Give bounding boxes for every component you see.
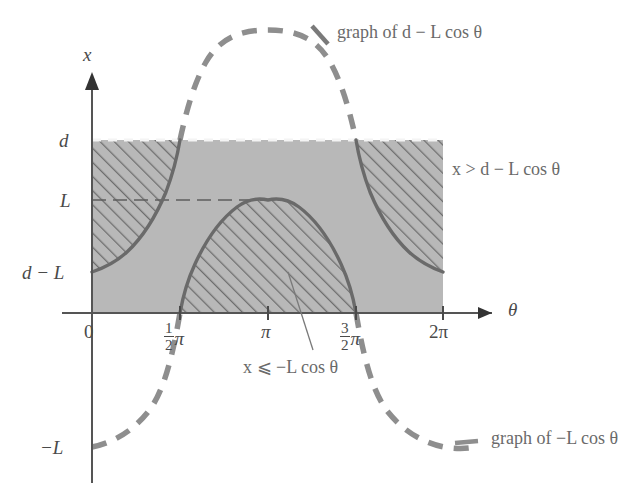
curve-minus-L-cos-dashed — [92, 313, 476, 449]
axis-label-x: x — [83, 45, 91, 64]
x-tick-label-two-pi: 2π — [429, 322, 448, 341]
x-tick-label-pi: π — [261, 322, 271, 341]
x-tick-label-zero: 0 — [84, 322, 94, 341]
y-tick-label-L: L — [60, 191, 71, 210]
pi-glyph-half: π — [175, 328, 185, 349]
y-tick-label-d: d — [59, 131, 69, 150]
y-tick-label-d-minus-L: d − L — [22, 263, 64, 282]
leader-line-upper-curve — [312, 26, 328, 44]
pi-glyph-three-half: π — [351, 328, 361, 349]
x-tick-label-half-pi: 1 2 π — [164, 320, 184, 352]
diagram-canvas — [0, 0, 643, 497]
leader-line-lower-curve — [455, 441, 478, 443]
callout-lower-curve: graph of −L cos θ — [491, 429, 618, 447]
x-tick-label-three-half-pi: 3 2 π — [340, 320, 360, 352]
callout-upper-curve: graph of d − L cos θ — [337, 23, 482, 41]
callout-lower-region: x ⩽ −L cos θ — [243, 358, 338, 376]
callout-upper-region: x > d − L cos θ — [452, 160, 560, 178]
fraction-one-half: 1 2 — [164, 320, 174, 352]
y-tick-label-minus-L: −L — [40, 438, 63, 457]
fraction-three-halves: 3 2 — [340, 320, 350, 352]
curve-d-minus-L-cos-dashed — [180, 30, 356, 140]
axis-label-theta: θ — [508, 300, 517, 319]
figure-root: x θ d L d − L −L 0 1 2 π π 3 2 π 2π grap… — [0, 0, 643, 497]
